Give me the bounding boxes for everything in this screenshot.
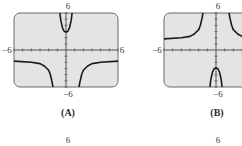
panel-a: 6 −6 −6 6 (A) xyxy=(2,1,125,119)
panel-b-x-min-label: −6 xyxy=(152,45,162,55)
next-row-a-y-max-label: 6 xyxy=(66,135,71,145)
next-row-b-y-max-label: 6 xyxy=(216,135,221,145)
panel-a-y-min-label: −6 xyxy=(63,89,73,99)
panel-a-x-max-label: 6 xyxy=(120,45,125,55)
panel-b-caption: (B) xyxy=(210,107,223,119)
panel-b: 6 −6 −6 (B) xyxy=(152,1,242,119)
panel-a-y-max-label: 6 xyxy=(66,1,71,11)
panel-b-y-max-label: 6 xyxy=(216,1,221,11)
panel-a-x-min-label: −6 xyxy=(2,45,12,55)
panel-a-caption: (A) xyxy=(61,107,75,119)
figure: 6 −6 −6 6 (A) 6 −6 −6 (B) 6 6 xyxy=(0,0,242,146)
panel-b-y-min-label: −6 xyxy=(213,89,223,99)
